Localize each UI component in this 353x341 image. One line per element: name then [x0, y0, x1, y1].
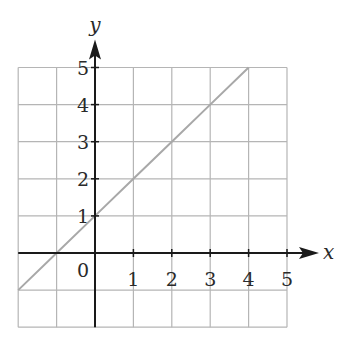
coordinate-plane: 12345123450xy: [0, 0, 353, 341]
x-tick-label: 3: [204, 268, 216, 290]
x-tick-label: 2: [166, 268, 178, 290]
y-tick-label: 1: [77, 205, 89, 227]
y-tick-label: 3: [77, 131, 89, 153]
x-tick-label: 4: [243, 268, 255, 290]
origin-label: 0: [77, 259, 89, 281]
x-tick-label: 1: [127, 268, 139, 290]
y-tick-label: 5: [77, 57, 89, 79]
y-axis-label: y: [88, 13, 101, 37]
x-tick-label: 5: [281, 268, 293, 290]
y-tick-label: 4: [77, 94, 89, 116]
x-axis-label: x: [323, 240, 334, 264]
y-tick-label: 2: [77, 168, 89, 190]
tick-labels: 12345123450xy: [77, 13, 334, 291]
